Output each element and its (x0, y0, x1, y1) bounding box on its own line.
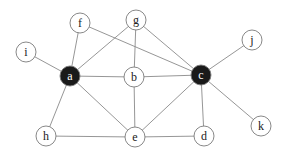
node-label: j (249, 33, 253, 47)
node-e: e (125, 127, 145, 147)
node-b: b (124, 67, 144, 87)
edge-f-c (80, 23, 201, 75)
edge-g-c (136, 20, 201, 75)
node-i: i (16, 42, 36, 62)
node-g: g (126, 10, 146, 30)
edge-a-e (70, 76, 135, 137)
node-j: j (242, 30, 262, 50)
node-label: g (133, 13, 139, 27)
node-c: c (191, 65, 211, 85)
node-label: k (258, 119, 264, 133)
node-label: b (131, 70, 137, 84)
node-label: c (198, 68, 203, 82)
node-k: k (251, 116, 271, 136)
node-f: f (70, 13, 90, 33)
node-a: a (60, 66, 80, 86)
node-label: h (43, 129, 49, 143)
edge-h-e (46, 136, 135, 137)
node-label: d (201, 129, 207, 143)
node-label: f (78, 16, 82, 30)
nodes-layer: abcdefghijk (16, 10, 271, 147)
node-d: d (194, 126, 214, 146)
node-label: a (67, 69, 73, 83)
node-label: e (132, 130, 137, 144)
edge-c-k (201, 75, 261, 126)
node-h: h (36, 126, 56, 146)
edge-c-e (135, 75, 201, 137)
graph-diagram: abcdefghijk (0, 0, 286, 157)
